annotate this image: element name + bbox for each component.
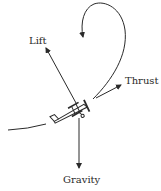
loop-path-arrow (82, 3, 125, 99)
lift-arrow (46, 48, 76, 103)
flight-path-incoming (8, 124, 46, 130)
airplane-icon (50, 100, 91, 130)
gravity-label: Gravity (63, 175, 100, 185)
thrust-label: Thrust (125, 76, 158, 86)
lift-label: Lift (29, 36, 47, 46)
forces-diagram (0, 0, 161, 191)
